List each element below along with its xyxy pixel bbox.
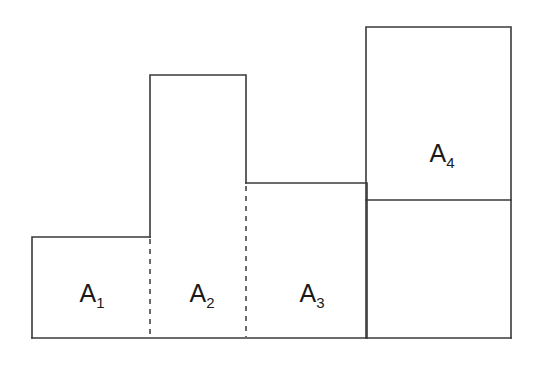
label-a1-base: A	[79, 279, 96, 307]
label-a4-subscript: 4	[446, 154, 454, 171]
label-a4-base: A	[429, 139, 446, 167]
label-a3-subscript: 3	[316, 294, 324, 311]
label-a1-subscript: 1	[96, 294, 104, 311]
label-a2-base: A	[189, 279, 206, 307]
label-a3-base: A	[299, 279, 316, 307]
region-a3-fill	[246, 183, 367, 338]
area-decomposition-figure: A1 A2 A3 A4	[0, 0, 537, 365]
region-a4-fill	[366, 27, 511, 338]
figure-canvas: A1 A2 A3 A4	[0, 0, 537, 365]
label-a2-subscript: 2	[206, 294, 214, 311]
